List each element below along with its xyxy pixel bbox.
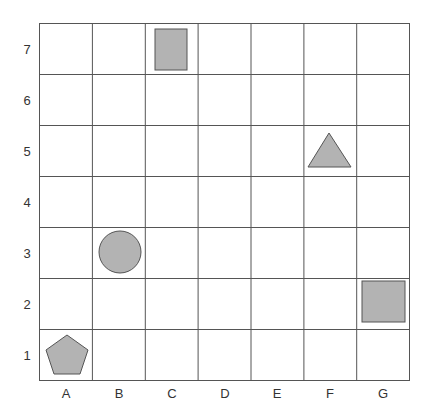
row-label: 7	[23, 42, 30, 57]
column-label: D	[220, 386, 229, 401]
row-label: 6	[23, 93, 30, 108]
column-label: A	[62, 386, 71, 401]
square-shape-g2	[362, 281, 405, 322]
column-label: G	[378, 386, 388, 401]
row-label: 4	[23, 195, 30, 210]
circle-shape-b3	[99, 231, 141, 273]
shapes	[46, 29, 405, 374]
grid-border	[40, 24, 410, 381]
triangle-shape-f5	[308, 133, 351, 167]
column-label: F	[326, 386, 334, 401]
rectangle-shape-c7	[155, 29, 187, 70]
row-labels: 7 6 5 4 3 2 1	[23, 42, 30, 363]
column-label: B	[115, 386, 124, 401]
row-label: 1	[23, 348, 30, 363]
pentagon-shape-a1	[46, 335, 88, 374]
row-label: 3	[23, 246, 30, 261]
column-labels: A B C D E F G	[62, 386, 388, 401]
row-label: 2	[23, 297, 30, 312]
column-label: C	[167, 386, 176, 401]
grid-diagram: 7 6 5 4 3 2 1 A B C D E F G	[0, 0, 429, 416]
grid-lines	[40, 24, 410, 381]
row-label: 5	[23, 144, 30, 159]
column-label: E	[273, 386, 282, 401]
